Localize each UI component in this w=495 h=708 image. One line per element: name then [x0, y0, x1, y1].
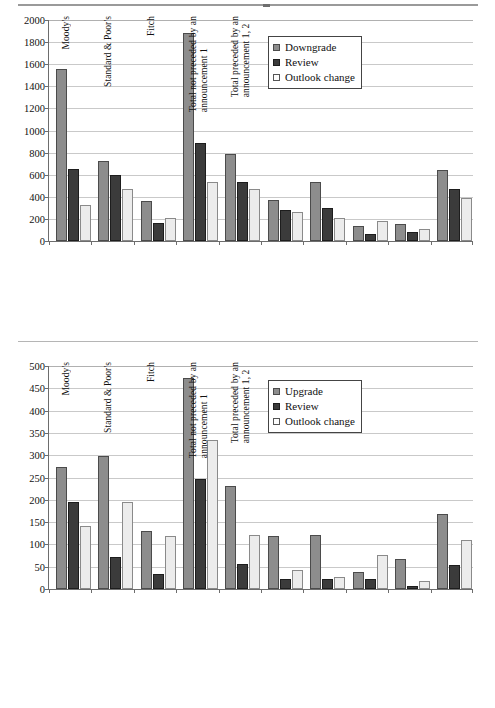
bar — [280, 579, 291, 589]
bar — [80, 205, 91, 241]
bar — [377, 221, 388, 241]
x-axis-category-label: Total preceded by anannouncement 1, 2 — [230, 362, 252, 443]
x-axis-category-label-line: Standard & Poor's — [103, 16, 114, 87]
y-axis-tick-label: 1400 — [5, 81, 45, 92]
y-axis-tick-mark — [45, 567, 49, 568]
y-axis-tick-mark — [45, 219, 49, 220]
bar — [461, 198, 472, 241]
x-axis-category-label: Standard & Poor's — [103, 16, 114, 87]
x-axis-category-label-line: Total not preceded by an — [188, 16, 199, 112]
x-axis-category-label-line: announcement 1, 2 — [241, 16, 252, 97]
x-axis-tick-mark — [49, 241, 50, 245]
x-axis-category-label-line: Standard & Poor's — [103, 362, 114, 433]
y-axis-tick-label: 100 — [5, 539, 45, 550]
y-axis-tick-label: 1000 — [5, 125, 45, 136]
bar — [122, 502, 133, 589]
x-axis-category-label: Total not preceded by anannouncement 1 — [188, 16, 210, 112]
bar — [195, 143, 206, 241]
bar — [237, 182, 248, 241]
bar — [98, 456, 109, 589]
y-axis-tick-mark — [45, 500, 49, 501]
bar — [322, 579, 333, 589]
x-axis-tick-mark — [261, 589, 262, 593]
bar — [207, 182, 218, 241]
x-axis-category-label-line: announcement 1, 2 — [241, 362, 252, 443]
x-axis-tick-mark — [176, 241, 177, 245]
bar — [165, 218, 176, 241]
x-axis-category-label-line: Total preceded by an — [230, 16, 241, 97]
x-axis-tick-mark — [91, 241, 92, 245]
bar — [153, 574, 164, 589]
bar — [310, 182, 321, 241]
x-axis-tick-mark — [261, 241, 262, 245]
bar — [56, 467, 67, 589]
x-axis-tick-mark — [346, 589, 347, 593]
x-axis-category-label: Moody's — [61, 362, 72, 396]
y-axis-tick-label: 400 — [5, 405, 45, 416]
x-axis-category-label: Total preceded by anannouncement 1, 2 — [230, 16, 252, 97]
bar — [122, 189, 133, 241]
bar — [365, 234, 376, 241]
y-axis-tick-label: 50 — [5, 561, 45, 572]
bar — [268, 536, 279, 589]
bar — [110, 175, 121, 241]
bar — [237, 564, 248, 589]
x-axis-tick-mark — [303, 241, 304, 245]
y-axis-tick-label: 450 — [5, 383, 45, 394]
bar — [249, 189, 260, 241]
bar — [153, 223, 164, 241]
x-axis-tick-mark — [219, 589, 220, 593]
x-axis-labels-bottom: Moody'sStandard & Poor'sFitchTotal not p… — [48, 360, 473, 460]
bar — [353, 572, 364, 589]
x-axis-tick-mark — [49, 589, 50, 593]
x-axis-category-label-line: Fitch — [146, 16, 157, 36]
y-axis-tick-label: 1800 — [5, 37, 45, 48]
bar — [461, 540, 472, 590]
x-axis-category-label: Moody's — [61, 16, 72, 50]
page-top-rule — [18, 4, 478, 6]
bar — [80, 526, 91, 589]
y-axis-tick-label: 2000 — [5, 15, 45, 26]
x-axis-tick-mark — [346, 241, 347, 245]
x-axis-category-label-line: Total preceded by an — [230, 362, 241, 443]
bar — [419, 229, 430, 241]
page-top-rule-tick — [263, 4, 270, 7]
x-axis-tick-mark — [431, 241, 432, 245]
bar — [68, 169, 79, 241]
x-axis-tick-mark — [388, 241, 389, 245]
x-axis-tick-mark — [219, 241, 220, 245]
x-axis-category-label: Standard & Poor's — [103, 362, 114, 433]
x-axis-category-label: Fitch — [146, 16, 157, 36]
x-axis-tick-mark — [176, 589, 177, 593]
bar — [365, 579, 376, 589]
y-axis-tick-label: 300 — [5, 450, 45, 461]
bar — [437, 514, 448, 589]
x-axis-category-label: Fitch — [146, 362, 157, 382]
y-axis-tick-label: 1600 — [5, 59, 45, 70]
x-axis-tick-mark — [431, 589, 432, 593]
chart-downgrades: 0200400600800100012001400160018002000 Do… — [0, 14, 495, 344]
y-axis-tick-label: 800 — [5, 147, 45, 158]
bar — [207, 440, 218, 589]
y-axis-tick-label: 500 — [5, 361, 45, 372]
y-axis-tick-mark — [45, 522, 49, 523]
bar — [141, 201, 152, 241]
bar — [353, 226, 364, 241]
y-axis-tick-mark — [45, 131, 49, 132]
y-axis-tick-mark — [45, 175, 49, 176]
x-axis-labels-top: Moody'sStandard & Poor'sFitchTotal not p… — [48, 14, 473, 114]
x-axis-category-label: Total not preceded by anannouncement 1 — [188, 362, 210, 458]
y-axis-tick-label: 200 — [5, 494, 45, 505]
bar — [449, 565, 460, 589]
bar — [98, 161, 109, 241]
bar — [292, 212, 303, 241]
y-axis-tick-label: 1200 — [5, 103, 45, 114]
x-axis-tick-mark — [472, 589, 473, 593]
x-axis-tick-mark — [303, 589, 304, 593]
bar — [377, 555, 388, 589]
y-axis-tick-label: 0 — [5, 584, 45, 595]
x-axis-tick-mark — [91, 589, 92, 593]
bar — [334, 218, 345, 241]
x-axis-tick-mark — [472, 241, 473, 245]
x-axis-category-label-line: Moody's — [61, 362, 72, 396]
